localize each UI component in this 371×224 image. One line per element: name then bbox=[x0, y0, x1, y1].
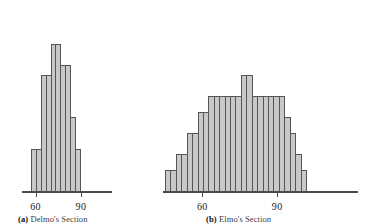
plot-area-b: 60 90 (b) Elmo's Section bbox=[160, 0, 371, 224]
x-tick-b-60 bbox=[202, 193, 203, 197]
bar-group-b bbox=[165, 75, 332, 191]
panel-caption-text-a: Delmo's Section bbox=[30, 214, 87, 224]
x-tick-label-a-60: 60 bbox=[30, 201, 41, 212]
x-tick-a-90 bbox=[81, 193, 82, 197]
x-tick-a-60 bbox=[36, 193, 37, 197]
panel-delmos-section: 60 90 (a) Delmo's Section bbox=[0, 0, 160, 224]
bar-group-a bbox=[31, 44, 90, 191]
bar bbox=[301, 170, 307, 191]
x-axis-b bbox=[163, 191, 358, 193]
x-tick-label-b-60: 60 bbox=[197, 201, 208, 212]
x-tick-label-a-90: 90 bbox=[76, 201, 87, 212]
bar bbox=[75, 149, 81, 191]
panel-caption-text-b: Elmo's Section bbox=[219, 214, 271, 224]
plot-area-a: 60 90 (a) Delmo's Section bbox=[0, 0, 160, 224]
histogram-figure: 60 90 (a) Delmo's Section 60 90 (b) Elmo… bbox=[0, 0, 371, 224]
panel-caption-a: (a) Delmo's Section bbox=[18, 214, 88, 224]
panel-label-a: (a) bbox=[18, 214, 28, 224]
x-tick-b-90 bbox=[277, 193, 278, 197]
panel-caption-b: (b) Elmo's Section bbox=[206, 214, 271, 224]
panel-elmos-section: 60 90 (b) Elmo's Section bbox=[160, 0, 371, 224]
x-tick-label-b-90: 90 bbox=[272, 201, 283, 212]
panel-label-b: (b) bbox=[206, 214, 217, 224]
